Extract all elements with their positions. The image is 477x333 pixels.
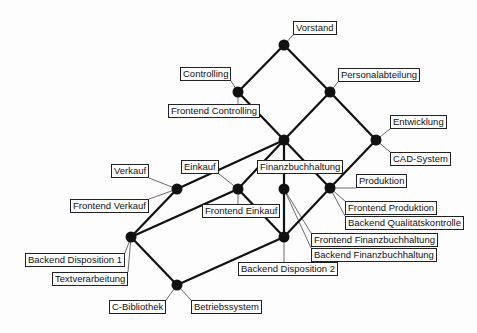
concept-label: Frontend Controlling (168, 104, 260, 118)
concept-label: Einkauf (181, 160, 219, 174)
concept-label: Finanzbuchhaltung (257, 160, 343, 174)
lattice-edge (131, 189, 177, 237)
concept-node (126, 232, 137, 243)
lattice-edge (131, 237, 177, 285)
concept-node (325, 183, 336, 194)
concept-node (279, 184, 290, 195)
lattice-edge (330, 92, 376, 140)
concept-label: Frontend Produktion (345, 201, 437, 215)
concept-label: Textverarbeitung (52, 272, 128, 286)
concept-label: Betriebssystem (191, 300, 262, 314)
lattice-edge (238, 45, 284, 92)
concept-label: Backend Disposition 2 (238, 262, 338, 276)
concept-label: Entwicklung (390, 115, 447, 129)
concept-node (172, 280, 183, 291)
concept-node (371, 135, 382, 146)
concept-label: Controlling (180, 67, 231, 81)
lattice-edge (284, 188, 330, 237)
lattice-edge (177, 237, 284, 285)
lattice-edge (284, 45, 330, 92)
concept-label: C-Bibliothek (109, 300, 166, 314)
concept-node (279, 232, 290, 243)
lattice-edge (284, 92, 330, 140)
concept-label: CAD-System (390, 152, 451, 166)
concept-label: Personalabteilung (338, 68, 420, 82)
concept-label: Backend Qualitätskontrolle (345, 216, 464, 230)
concept-label: Vorstand (293, 21, 337, 35)
concept-node (233, 87, 244, 98)
concept-label: Frontend Finanzbuchhaltung (311, 233, 438, 247)
concept-label: Produktion (356, 174, 407, 188)
concept-label: Verkauf (111, 164, 149, 178)
concept-node (325, 87, 336, 98)
concept-node (172, 184, 183, 195)
lattice-diagram: VorstandControllingFrontend ControllingP… (0, 0, 477, 333)
concept-node (279, 40, 290, 51)
concept-label: Frontend Verkauf (70, 199, 149, 213)
concept-node (233, 184, 244, 195)
concept-label: Frontend Einkauf (202, 204, 280, 218)
concept-node (279, 135, 290, 146)
concept-label: Backend Disposition 1 (25, 253, 125, 267)
concept-label: Backend Finanzbuchhaltung (311, 248, 437, 262)
